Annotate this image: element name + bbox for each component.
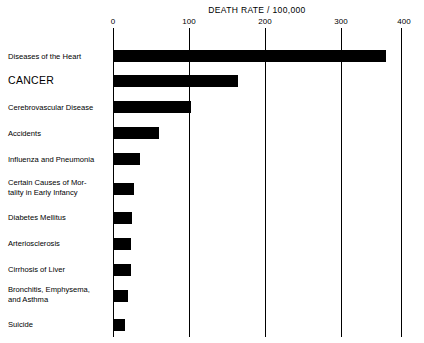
xtick-mark-0 — [113, 28, 114, 37]
category-label-accidents: Accidents — [8, 129, 112, 139]
bar-suicide — [114, 319, 125, 331]
xtick-mark-100 — [189, 28, 190, 37]
xtick-label-0: 0 — [98, 17, 128, 26]
xtick-label-200: 200 — [250, 17, 280, 26]
plot-area — [113, 37, 401, 337]
category-label-arteriosclerosis: Arteriosclerosis — [8, 239, 112, 249]
bar-accidents — [114, 127, 159, 139]
bar-diseases-of-the-heart — [114, 50, 386, 62]
category-label-diseases-of-the-heart: Diseases of the Heart — [8, 52, 112, 62]
bar-chart: DEATH RATE / 100,000 0 100 200 300 400 D… — [0, 0, 424, 343]
bar-diabetes-mellitus — [114, 212, 132, 224]
category-label-diabetes-mellitus: Diabetes Mellitus — [8, 213, 112, 223]
bar-arteriosclerosis — [114, 238, 131, 250]
category-label-suicide: Suicide — [8, 320, 112, 330]
category-label-line-2: and Asthma — [8, 295, 112, 305]
gridline-300 — [341, 37, 342, 337]
category-label-certain-causes-of-mortality-in-early-infancy: Certain Causes of Mor- tality in Early I… — [8, 178, 112, 197]
category-label-line-2: tality in Early Infancy — [8, 188, 112, 198]
category-label-bronchitis-emphysema-and-asthma: Bronchitis, Emphysema, and Asthma — [8, 285, 112, 304]
bar-cerebrovascular-disease — [114, 101, 191, 113]
category-label-cerebrovascular-disease: Cerebrovascular Disease — [8, 103, 112, 113]
bar-bronchitis-emphysema-and-asthma — [114, 290, 128, 302]
xtick-mark-300 — [341, 28, 342, 37]
category-label-line-1: Bronchitis, Emphysema, — [8, 285, 112, 295]
xtick-label-100: 100 — [174, 17, 204, 26]
xtick-mark-400 — [401, 28, 402, 37]
xtick-mark-200 — [265, 28, 266, 37]
bar-influenza-and-pneumonia — [114, 153, 140, 165]
category-label-cirrhosis-of-liver: Cirrhosis of Liver — [8, 265, 112, 275]
bar-certain-causes-of-mortality-in-early-infancy — [114, 183, 134, 195]
chart-title: DEATH RATE / 100,000 — [113, 5, 401, 15]
bar-cirrhosis-of-liver — [114, 264, 131, 276]
bar-cancer — [114, 75, 238, 87]
xtick-label-400: 400 — [389, 17, 419, 26]
gridline-200 — [265, 37, 266, 337]
xtick-label-300: 300 — [326, 17, 356, 26]
gridline-400 — [401, 37, 402, 337]
category-label-cancer: CANCER — [8, 76, 112, 86]
category-label-line-1: Certain Causes of Mor- — [8, 178, 112, 188]
category-label-influenza-and-pneumonia: Influenza and Pneumonia — [8, 155, 112, 165]
